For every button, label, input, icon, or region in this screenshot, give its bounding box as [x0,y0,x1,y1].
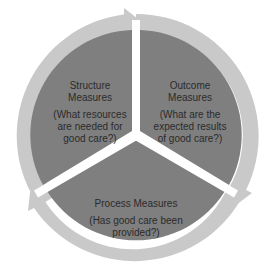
outcome-question-line-1: (What are the [140,109,240,121]
outcome-question-line-2: expected results [140,121,240,133]
segment-title: Outcome Measures [140,80,240,104]
structure-question-line-3: good care?) [38,133,142,145]
process-title-line-1: Process Measures [76,198,196,210]
segment-question: (What resources are needed for good care… [38,109,142,145]
segment-title: Structure Measures [38,80,142,104]
segment-question: (What are the expected results of good c… [140,109,240,145]
structure-question-line-1: (What resources [38,109,142,121]
process-question-line-1: (Has good care been [76,215,196,227]
outcome-title-line-2: Measures [140,92,240,104]
segment-outcome: Outcome Measures (What are the expected … [140,80,240,145]
segment-process: Process Measures (Has good care been pro… [76,198,196,239]
structure-title-line-1: Structure [38,80,142,92]
segment-title: Process Measures [76,198,196,210]
outcome-question-line-3: of good care?) [140,133,240,145]
segment-question: (Has good care been provided?) [76,215,196,239]
outcome-title-line-1: Outcome [140,80,240,92]
structure-question-line-2: are needed for [38,121,142,133]
process-question-line-2: provided?) [76,227,196,239]
structure-title-line-2: Measures [38,92,142,104]
segment-structure: Structure Measures (What resources are n… [38,80,142,145]
